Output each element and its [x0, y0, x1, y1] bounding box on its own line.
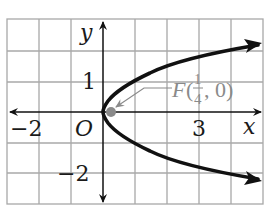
x-axis-label: x: [243, 114, 256, 139]
origin-label: O: [75, 116, 93, 141]
focus-rest: , 0): [204, 77, 233, 102]
focus-leader-line: [116, 88, 172, 107]
focus-open-paren: (: [186, 77, 193, 102]
parabola-graph: F ( 1 4 , 0) y x O −2 3 1 −2: [0, 0, 277, 221]
y-tick-neg2: −2: [57, 161, 89, 186]
focus-point: [106, 107, 116, 117]
y-tick-1: 1: [82, 69, 96, 94]
focus-label: F ( 1 4 , 0): [171, 71, 233, 107]
focus-numerator: 1: [194, 71, 202, 87]
focus-letter: F: [171, 77, 186, 102]
y-axis-label: y: [79, 20, 93, 45]
x-tick-3: 3: [192, 116, 206, 141]
focus-denominator: 4: [194, 91, 202, 107]
x-tick-neg2: −2: [10, 116, 42, 141]
